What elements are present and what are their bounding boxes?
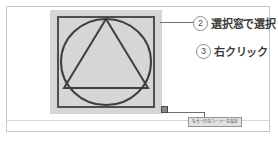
selection-window[interactable] — [50, 10, 162, 114]
callout-number-badge: 3 — [196, 44, 211, 59]
command-prompt-text: もう一方のコーナーを指定 — [192, 119, 238, 125]
callout-number-badge: 2 — [193, 16, 208, 31]
callout-label: 選択窓で選択 — [211, 15, 276, 31]
callout-right-click: 3 右クリック — [196, 43, 268, 59]
callout-label: 右クリック — [214, 43, 268, 59]
drawing-canvas-graphics — [50, 10, 162, 114]
inner-square-shape — [58, 17, 154, 107]
corner-grip-handle[interactable] — [161, 106, 168, 113]
inscribed-circle-shape — [61, 19, 151, 105]
leader-line-select — [160, 22, 194, 23]
leader-line-tooltip-horizontal — [168, 112, 204, 113]
command-prompt-tooltip: もう一方のコーナーを指定 — [188, 117, 242, 127]
callout-select-window: 2 選択窓で選択 — [193, 15, 276, 31]
screenshot-root: 2 選択窓で選択 3 右クリック もう一方のコーナーを指定 — [0, 0, 278, 141]
